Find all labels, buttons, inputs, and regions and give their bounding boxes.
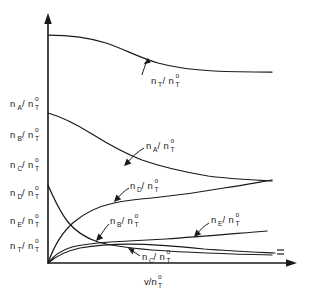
y-tick-nt-base: n: [10, 240, 15, 251]
y-tick-nt-slash: /: [22, 240, 25, 251]
y-tick-label-nc: n C / n T o: [10, 156, 39, 172]
curve-label-ne-denom-sub: T: [236, 220, 240, 227]
y-tick-nb-denom-sup: o: [35, 126, 39, 133]
y-tick-nc-base: n: [10, 159, 15, 170]
leader-line-na: [127, 148, 144, 163]
y-tick-nb-denom: n: [28, 129, 33, 140]
y-tick-nb-slash: /: [22, 129, 25, 140]
y-tick-na-base: n: [10, 98, 15, 109]
curve-label-na: n A / n T o: [124, 137, 175, 166]
x-axis-label-sup: o: [158, 273, 162, 280]
curve-label-nc-denom: n: [160, 251, 165, 262]
curve-label-nt-denom-sub: T: [176, 81, 180, 88]
curve-label-na-base: n: [146, 140, 151, 151]
y-tick-ne-base: n: [10, 215, 15, 226]
curve-label-nt-sub: T: [158, 81, 162, 88]
y-tick-nd-slash: /: [22, 187, 25, 198]
curve-label-nb-denom-sub: T: [135, 221, 139, 228]
y-tick-nc-slash: /: [22, 159, 25, 170]
y-tick-label-nb: n B / n T o: [10, 126, 39, 142]
curves-group: [48, 35, 275, 263]
y-tick-nt-denom: n: [28, 240, 33, 251]
curve-label-nd-denom-sub: T: [155, 186, 159, 193]
curve-label-nb-slash: /: [122, 215, 125, 226]
y-tick-label-ne: n E / n T o: [10, 212, 39, 228]
y-tick-ne-denom: n: [28, 215, 33, 226]
curve-label-nc-denom-sub: T: [167, 257, 171, 264]
leader-arrow-nb: [96, 234, 103, 241]
x-axis-label: v/n T o: [144, 273, 162, 289]
x-axis-label-base: v/n: [144, 276, 157, 287]
y-tick-label-nd: n D / n T o: [10, 184, 39, 200]
curve-label-nd-slash: /: [142, 180, 145, 191]
curve-label-ne-denom: n: [229, 214, 234, 225]
curve-label-nt: n T / n T o: [142, 58, 180, 88]
y-tick-nc-denom-sup: o: [35, 156, 39, 163]
y-tick-nd-denom: n: [28, 187, 33, 198]
y-tick-nt-denom-sub: T: [35, 246, 39, 253]
curve-label-ne: n E / n T o: [194, 211, 240, 237]
y-tick-ne-slash: /: [22, 215, 25, 226]
y-tick-nb-base: n: [10, 129, 15, 140]
curve-label-nb-base: n: [110, 215, 115, 226]
convergence-equals-mark: [277, 250, 284, 254]
curve-nt: [48, 35, 272, 72]
curve-label-nt-denom: n: [169, 75, 174, 86]
y-tick-na-slash: /: [22, 98, 25, 109]
leader-arrow-nc: [128, 248, 134, 254]
x-axis-label-sub: T: [158, 282, 162, 289]
y-tick-nt-denom-sup: o: [35, 237, 39, 244]
curve-label-na-denom: n: [164, 140, 169, 151]
curve-label-nc-slash: /: [154, 251, 157, 262]
curve-label-na-denom-sub: T: [171, 146, 175, 153]
curve-label-ne-base: n: [211, 214, 216, 225]
y-tick-ne-denom-sup: o: [35, 212, 39, 219]
y-tick-nc-denom: n: [28, 159, 33, 170]
curve-label-nc: n C / n T o: [128, 248, 171, 264]
y-tick-ne-denom-sub: T: [35, 221, 39, 228]
chart-figure: n A / n T o n B / n T o n C / n T: [0, 0, 318, 298]
y-axis-tick-labels: n A / n T o n B / n T o n C / n T: [10, 95, 39, 253]
y-tick-label-na: n A / n T o: [10, 95, 39, 111]
y-tick-na-denom-sub: T: [35, 104, 39, 111]
y-tick-nd-denom-sup: o: [35, 184, 39, 191]
y-tick-nt-sub: T: [18, 246, 22, 253]
curve-ne: [48, 231, 267, 263]
curve-label-ne-denom-sup: o: [236, 211, 240, 218]
y-tick-nd-base: n: [10, 187, 15, 198]
y-tick-label-nt: n T / n T o: [10, 237, 39, 253]
curve-label-nb-denom-sup: o: [135, 212, 139, 219]
curve-label-nc-denom-sup: o: [167, 248, 171, 255]
curve-label-ne-slash: /: [223, 214, 226, 225]
y-tick-nc-denom-sub: T: [35, 165, 39, 172]
y-tick-nb-denom-sub: T: [35, 135, 39, 142]
curve-label-nt-slash: /: [163, 75, 166, 86]
curve-label-nb: n B / n T o: [96, 212, 139, 241]
y-tick-na-denom: n: [28, 98, 33, 109]
curve-label-nt-denom-sup: o: [176, 72, 180, 79]
curve-label-nd-base: n: [130, 180, 135, 191]
curve-label-na-denom-sup: o: [171, 137, 175, 144]
curve-label-na-slash: /: [158, 140, 161, 151]
y-tick-na-denom-sup: o: [35, 95, 39, 102]
curve-label-nb-denom: n: [128, 215, 133, 226]
y-tick-nd-denom-sub: T: [35, 193, 39, 200]
chart-svg: n A / n T o n B / n T o n C / n T: [0, 0, 318, 298]
y-axis-arrowhead: [44, 13, 52, 24]
x-axis-arrowhead: [286, 259, 297, 267]
curve-label-nt-base: n: [151, 75, 156, 86]
curve-label-nc-base: n: [142, 251, 147, 262]
curve-label-nd-denom-sup: o: [155, 177, 159, 184]
curve-label-nd-denom: n: [148, 180, 153, 191]
